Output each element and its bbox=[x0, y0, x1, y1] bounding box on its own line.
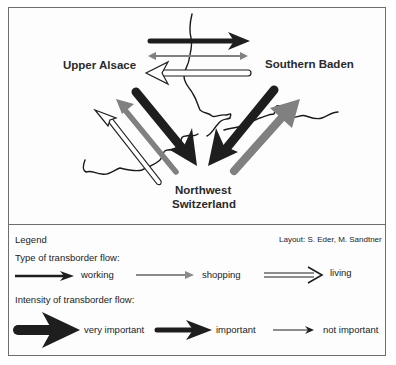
legend-important-arrow bbox=[157, 320, 212, 340]
legend-intensity-very-important: very important bbox=[84, 324, 144, 335]
legend-symbols bbox=[0, 0, 396, 365]
legend-intensity-important: important bbox=[216, 324, 256, 335]
legend-intensity-heading: Intensity of transborder flow: bbox=[15, 294, 134, 305]
legend-intensity-not-important: not important bbox=[323, 324, 378, 335]
legend-working-arrow bbox=[15, 271, 74, 281]
legend-living-arrow bbox=[264, 267, 322, 283]
legend-type-shopping: shopping bbox=[202, 269, 241, 280]
legend-type-working: working bbox=[81, 269, 114, 280]
legend-type-living: living bbox=[330, 267, 352, 278]
legend-not-important-arrow bbox=[273, 326, 314, 334]
legend-shopping-arrow bbox=[136, 271, 194, 279]
legend-very-important-arrow bbox=[18, 312, 80, 348]
